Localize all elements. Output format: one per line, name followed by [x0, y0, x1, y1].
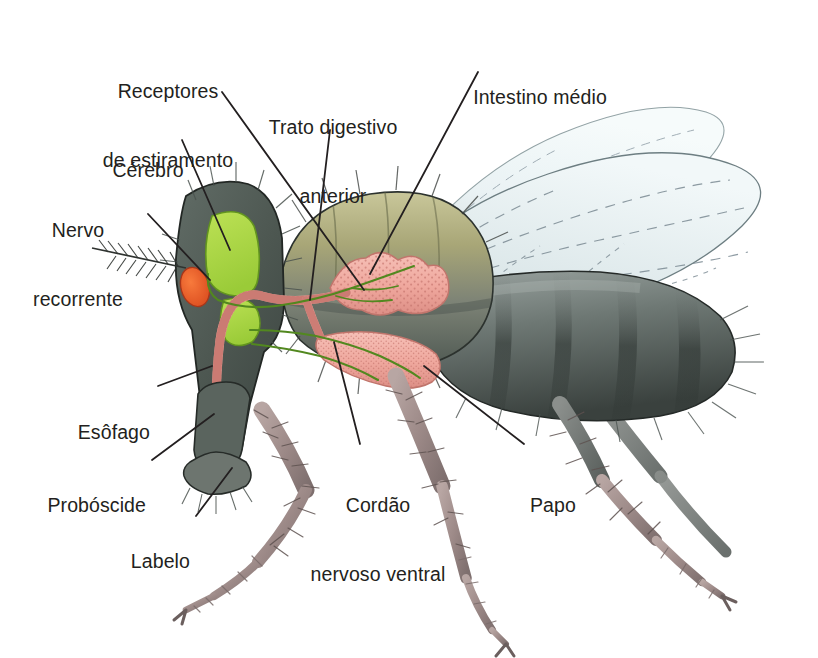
label-line-1: Labelo [40, 550, 190, 573]
label-line-1: Cordão [288, 494, 468, 517]
label-papo: Papo [530, 448, 650, 540]
label-line-1: Papo [530, 494, 650, 517]
label-nervo-recorrente: Nervo recorrente [8, 173, 148, 334]
label-intestino-medio: Intestino médio [440, 40, 640, 132]
label-cordao-nervoso-ventral: Cordão nervoso ventral [288, 448, 468, 609]
label-line-2: anterior [238, 185, 428, 208]
label-line-1: Intestino médio [440, 86, 640, 109]
label-line-1: Esôfago [0, 421, 150, 444]
label-labelo: Labelo [40, 504, 190, 596]
labellum [182, 452, 252, 514]
label-line-1: Nervo [8, 219, 148, 242]
label-trato-digestivo-anterior: Trato digestivo anterior [238, 70, 428, 231]
label-line-2: nervoso ventral [288, 563, 468, 586]
label-line-2: recorrente [8, 288, 148, 311]
label-line-1: Trato digestivo [238, 116, 428, 139]
